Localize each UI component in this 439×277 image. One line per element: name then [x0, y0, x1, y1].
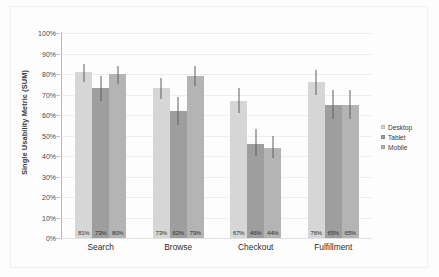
x-axis-label: Checkout	[217, 242, 295, 252]
bar-fill	[75, 72, 92, 238]
bar-fill	[109, 74, 126, 238]
bar-fill	[247, 144, 264, 238]
bar[interactable]: 44%	[264, 148, 281, 238]
bar-value-label: 44%	[267, 230, 279, 236]
bar-fill	[325, 105, 342, 238]
y-axis-tick-mark	[56, 33, 60, 34]
y-axis-ticks: 0%10%20%30%40%50%60%70%80%90%100%	[0, 33, 56, 238]
y-axis-tick-mark	[56, 74, 60, 75]
legend-item[interactable]: Mobile	[381, 142, 412, 152]
y-axis-tick-mark	[56, 238, 60, 239]
y-axis-tick-label: 40%	[2, 153, 56, 160]
bar[interactable]: 65%	[342, 105, 359, 238]
y-axis-tick-mark	[56, 156, 60, 157]
bar-fill	[187, 76, 204, 238]
y-axis-tick-label: 90%	[2, 50, 56, 57]
error-bar	[100, 76, 101, 101]
bar-value-label: 46%	[250, 230, 262, 236]
y-axis-tick-label: 100%	[2, 30, 56, 37]
bar-group: 67%46%44%	[217, 33, 295, 238]
legend-item[interactable]: Desktop	[381, 122, 412, 132]
y-axis-tick-label: 30%	[2, 173, 56, 180]
bar-value-label: 67%	[233, 230, 245, 236]
error-bar	[238, 88, 239, 113]
error-bar	[255, 129, 256, 156]
y-axis-tick-mark	[56, 177, 60, 178]
bar-fill	[342, 105, 359, 238]
bar-group: 76%65%65%	[295, 33, 373, 238]
error-bar	[333, 90, 334, 119]
y-axis-tick-label: 20%	[2, 194, 56, 201]
bar[interactable]: 65%	[325, 105, 342, 238]
plot-area: 81%73%80%Search73%62%79%Browse67%46%44%C…	[62, 33, 372, 238]
x-axis-label: Fulfillment	[295, 242, 373, 252]
legend-item[interactable]: Tablet	[381, 132, 412, 142]
error-bar	[83, 64, 84, 82]
y-axis-tick-mark	[56, 136, 60, 137]
bar[interactable]: 46%	[247, 144, 264, 238]
chart-container: Single Usability Metric (SUM) 0%10%20%30…	[0, 0, 439, 277]
bar-value-label: 73%	[155, 230, 167, 236]
error-bar	[178, 97, 179, 126]
bar-value-label: 65%	[344, 230, 356, 236]
bar-value-label: 76%	[310, 230, 322, 236]
x-axis-label: Search	[62, 242, 140, 252]
legend-swatch-icon	[381, 145, 385, 149]
bar-fill	[170, 111, 187, 238]
gridline	[62, 238, 372, 239]
y-axis-tick-label: 70%	[2, 91, 56, 98]
chart-legend: DesktopTabletMobile	[381, 122, 412, 152]
bar-group: 73%62%79%	[140, 33, 218, 238]
y-axis-tick-mark	[56, 95, 60, 96]
bar[interactable]: 73%	[92, 88, 109, 238]
bar-fill	[308, 82, 325, 238]
error-bar	[117, 66, 118, 84]
y-axis-tick-mark	[56, 218, 60, 219]
bar[interactable]: 80%	[109, 74, 126, 238]
bar-value-label: 79%	[189, 230, 201, 236]
bar-fill	[153, 88, 170, 238]
x-axis-label: Browse	[140, 242, 218, 252]
error-bar	[316, 70, 317, 95]
y-axis-tick-label: 80%	[2, 71, 56, 78]
bar-value-label: 73%	[95, 230, 107, 236]
bar-value-label: 80%	[112, 230, 124, 236]
legend-swatch-icon	[381, 135, 385, 139]
y-axis-tick-mark	[56, 197, 60, 198]
legend-label: Desktop	[388, 124, 412, 131]
error-bar	[350, 90, 351, 119]
error-bar	[272, 136, 273, 159]
bar[interactable]: 73%	[153, 88, 170, 238]
y-axis-tick-label: 60%	[2, 112, 56, 119]
bar[interactable]: 76%	[308, 82, 325, 238]
bar-value-label: 81%	[78, 230, 90, 236]
y-axis-tick-label: 50%	[2, 132, 56, 139]
bar[interactable]: 67%	[230, 101, 247, 238]
y-axis-tick-mark	[56, 54, 60, 55]
error-bar	[195, 66, 196, 87]
legend-label: Mobile	[388, 144, 407, 151]
legend-swatch-icon	[381, 125, 385, 129]
y-axis-tick-mark	[56, 115, 60, 116]
legend-label: Tablet	[388, 134, 406, 141]
y-axis-tick-label: 0%	[2, 235, 56, 242]
error-bar	[161, 78, 162, 99]
bar[interactable]: 81%	[75, 72, 92, 238]
y-axis-tick-label: 10%	[2, 214, 56, 221]
bar-fill	[92, 88, 109, 238]
bar[interactable]: 62%	[170, 111, 187, 238]
bar-value-label: 62%	[172, 230, 184, 236]
bar[interactable]: 79%	[187, 76, 204, 238]
bar-value-label: 65%	[327, 230, 339, 236]
bar-fill	[230, 101, 247, 238]
bar-group: 81%73%80%	[62, 33, 140, 238]
bar-fill	[264, 148, 281, 238]
